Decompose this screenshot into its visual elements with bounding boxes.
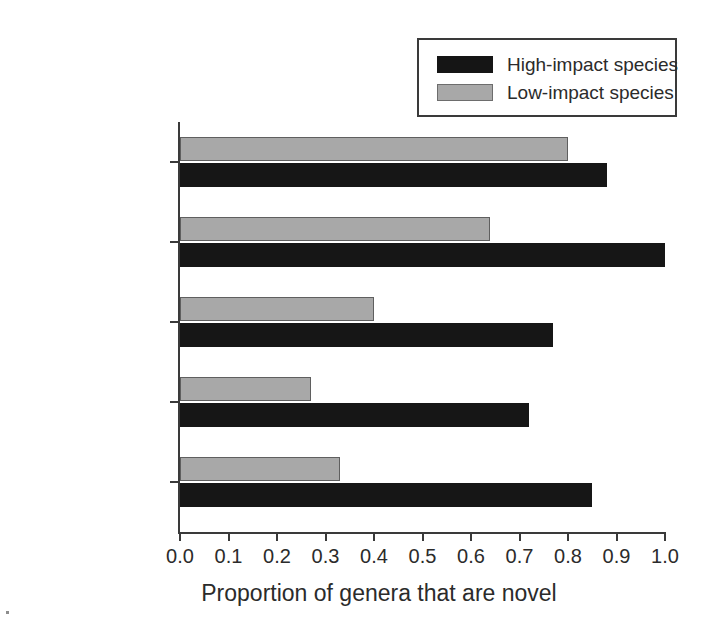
x-tick-label: 0.4 — [360, 546, 388, 566]
bar-high-impact-potomac-river — [180, 323, 553, 347]
x-tick-mark — [228, 532, 230, 541]
bar-low-impact-hudson-river — [180, 377, 311, 401]
legend-label-high-impact: High-impact species — [507, 55, 678, 74]
x-tick-label: 0.6 — [457, 546, 485, 566]
bar-low-impact-potomac-river — [180, 297, 374, 321]
x-tick-mark — [179, 532, 181, 541]
y-tick-mark — [170, 161, 179, 163]
gray-swatch-icon — [437, 84, 493, 101]
x-tick-mark — [664, 532, 666, 541]
x-tick-label: 0.3 — [312, 546, 340, 566]
legend-entry-high-impact: High-impact species — [437, 50, 675, 78]
x-axis-title: Proportion of genera that are novel — [0, 580, 706, 606]
x-tick-mark — [422, 532, 424, 541]
bar-high-impact-hudson-river — [180, 403, 529, 427]
bar-low-impact-rhine-river — [180, 137, 568, 161]
bar-high-impact-rhine-river — [180, 163, 607, 187]
legend-entry-low-impact: Low-impact species — [437, 78, 675, 106]
y-tick-mark — [170, 241, 179, 243]
black-swatch-icon — [437, 56, 493, 73]
scan-artifact — [6, 611, 9, 614]
bar-high-impact-great-lakes — [180, 483, 592, 507]
y-tick-mark — [170, 321, 179, 323]
y-tick-mark — [170, 481, 179, 483]
x-tick-mark — [519, 532, 521, 541]
bar-high-impact-lake-biwa — [180, 243, 665, 267]
x-tick-label: 0.0 — [166, 546, 194, 566]
plot-area: Rhine River Lake Biwa Potomac River Huds… — [180, 122, 665, 532]
bar-chart-figure: High-impact species Low-impact species R… — [0, 0, 706, 632]
x-tick-label: 1.0 — [651, 546, 679, 566]
legend-label-low-impact: Low-impact species — [507, 83, 674, 102]
y-tick-mark — [170, 401, 179, 403]
x-axis-title-text: Proportion of genera that are novel — [201, 580, 556, 606]
x-tick-mark — [616, 532, 618, 541]
x-tick-mark — [325, 532, 327, 541]
x-tick-label: 0.1 — [215, 546, 243, 566]
x-tick-mark — [373, 532, 375, 541]
bar-low-impact-great-lakes — [180, 457, 340, 481]
x-tick-label: 0.8 — [554, 546, 582, 566]
x-tick-mark — [276, 532, 278, 541]
x-tick-label: 0.7 — [506, 546, 534, 566]
x-tick-mark — [470, 532, 472, 541]
x-tick-mark — [567, 532, 569, 541]
x-tick-label: 0.2 — [263, 546, 291, 566]
x-tick-label: 0.9 — [603, 546, 631, 566]
chart-legend: High-impact species Low-impact species — [417, 38, 677, 117]
bar-low-impact-lake-biwa — [180, 217, 490, 241]
x-tick-label: 0.5 — [409, 546, 437, 566]
